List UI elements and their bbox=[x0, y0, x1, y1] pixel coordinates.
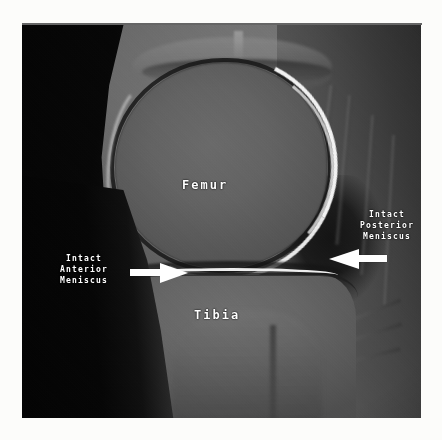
label-anterior-meniscus-line2: Anterior bbox=[60, 264, 108, 275]
label-tibia: Tibia bbox=[194, 308, 240, 322]
label-anterior-meniscus-line1: Intact bbox=[60, 253, 108, 264]
label-posterior-meniscus-line3: Meniscus bbox=[360, 231, 414, 242]
arrow-head bbox=[160, 263, 188, 283]
ghost-text-line bbox=[40, 424, 43, 436]
label-anterior-meniscus-line3: Meniscus bbox=[60, 275, 108, 286]
tibial-marrow-shading bbox=[172, 310, 322, 418]
arrow-tail bbox=[130, 269, 164, 276]
arrow-head bbox=[329, 249, 359, 269]
mri-image-panel: Femur Tibia Intact Anterior Meniscus Int… bbox=[22, 25, 421, 418]
label-posterior-meniscus: Intact Posterior Meniscus bbox=[360, 209, 414, 242]
label-femur: Femur bbox=[182, 178, 228, 192]
scanned-page-background: Femur Tibia Intact Anterior Meniscus Int… bbox=[0, 0, 442, 440]
label-posterior-meniscus-line1: Intact bbox=[360, 209, 414, 220]
arrow-left-icon bbox=[325, 249, 387, 269]
arrow-right-icon bbox=[130, 263, 188, 283]
label-anterior-meniscus: Intact Anterior Meniscus bbox=[60, 253, 108, 286]
arrow-tail bbox=[355, 255, 387, 262]
tibial-vertical-line bbox=[270, 325, 276, 418]
ghost-text-line bbox=[28, 4, 31, 16]
label-posterior-meniscus-line2: Posterior bbox=[360, 220, 414, 231]
